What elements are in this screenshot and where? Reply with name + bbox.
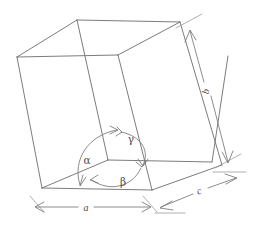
unit-cell-diagram: α β γ a b	[0, 0, 269, 226]
dim-label-c: c	[195, 185, 203, 197]
dim-label-a: a	[84, 202, 89, 213]
dimension-a: a	[30, 196, 157, 213]
angle-label-gamma: γ	[128, 133, 134, 145]
dim-c-line-upper	[208, 178, 236, 188]
dim-c-arrow-upper	[225, 174, 237, 184]
dim-a-ext-left	[30, 196, 44, 212]
cell-faces	[17, 20, 222, 190]
dim-c-arrow-lower	[160, 201, 173, 210]
dim-b-ext-top	[176, 14, 202, 28]
dim-label-b: b	[200, 88, 212, 95]
dim-b-arrow-bottom	[222, 151, 233, 163]
angle-label-beta: β	[120, 176, 126, 188]
unit-cell-figure: α β γ a b	[0, 0, 269, 226]
angle-label-alpha: α	[83, 154, 90, 166]
